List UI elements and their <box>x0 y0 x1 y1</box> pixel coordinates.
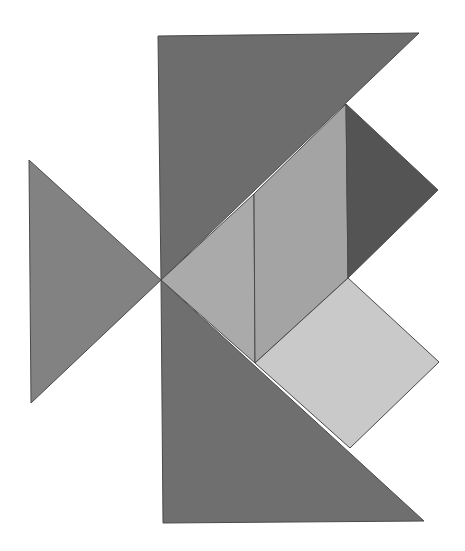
small-triangle-head <box>346 104 438 278</box>
medium-triangle-tail <box>29 160 161 403</box>
tangram-fish-figure <box>0 0 465 551</box>
tangram-canvas: Tangram fish <box>0 0 465 551</box>
